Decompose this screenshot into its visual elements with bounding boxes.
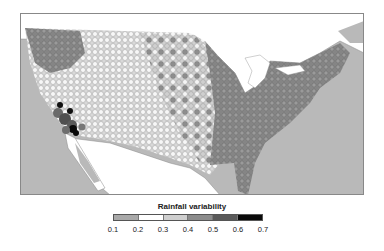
legend-bin-0: [114, 215, 139, 220]
us-rainfall-map: [20, 13, 364, 195]
legend-bin-5: [238, 215, 262, 220]
legend-tick: 0.6: [233, 225, 243, 234]
legend-bin-3: [188, 215, 213, 220]
legend-tick: 0.5: [208, 225, 218, 234]
legend-bin-1: [139, 215, 164, 220]
legend-tick: 0.3: [158, 225, 168, 234]
legend-tick: 0.4: [183, 225, 193, 234]
legend-bin-2: [164, 215, 189, 220]
legend-tick: 0.2: [133, 225, 143, 234]
legend-colorbar: [113, 214, 263, 221]
legend-tick: 0.7: [258, 225, 268, 234]
legend-tick: 0.1: [108, 225, 118, 234]
legend-bin-4: [213, 215, 238, 220]
legend-title: Rainfall variability: [0, 202, 384, 211]
